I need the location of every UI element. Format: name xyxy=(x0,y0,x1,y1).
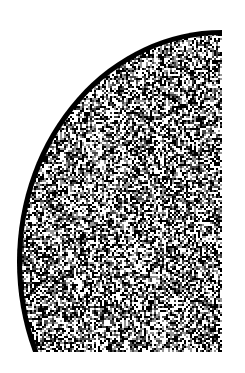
speckle-quarter-disc xyxy=(0,0,245,373)
